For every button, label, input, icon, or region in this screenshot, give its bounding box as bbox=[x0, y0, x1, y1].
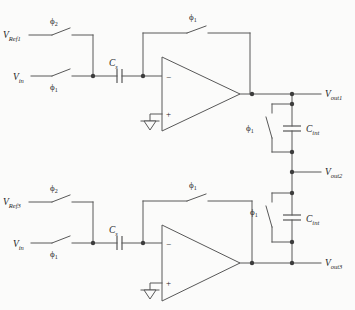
reset-switch-1 bbox=[266, 104, 292, 152]
integration-capacitor-1 bbox=[283, 126, 301, 131]
integrator-2: − + VRef3 ϕ2 Vin ϕ1 Cs ϕ1 bbox=[3, 180, 252, 301]
vin-label: Vin bbox=[13, 72, 24, 84]
inverting-input-label: − bbox=[166, 239, 171, 249]
phi2-label: ϕ2 bbox=[50, 183, 58, 194]
ground-symbol bbox=[141, 114, 162, 130]
vout2-label: Vout2 bbox=[325, 167, 343, 179]
opamp-2: − + bbox=[162, 225, 240, 301]
vref1-label: VRef1 bbox=[3, 30, 21, 42]
vin-branch-wire bbox=[31, 69, 93, 76]
opamp-body bbox=[162, 57, 240, 131]
phi2-switch-blade bbox=[52, 195, 70, 202]
inverting-input-label: − bbox=[166, 72, 171, 82]
phi2-switch-blade bbox=[52, 28, 70, 35]
phi1-switch-blade bbox=[52, 236, 70, 243]
noninverting-input-label: + bbox=[166, 278, 171, 288]
vin-label: Vin bbox=[13, 239, 24, 251]
reset-switch-2 bbox=[266, 193, 292, 242]
feedback-switch-blade bbox=[187, 194, 206, 201]
schematic-canvas: − + VRef1 ϕ2 Vin ϕ1 Cs ϕ1 bbox=[0, 0, 355, 310]
phi1-label: ϕ1 bbox=[50, 82, 58, 93]
vref1-branch-wire bbox=[29, 28, 93, 76]
cs-label: Cs bbox=[109, 225, 118, 237]
ground-symbol bbox=[141, 283, 162, 299]
noninverting-input-label: + bbox=[166, 109, 171, 119]
opamp-1: − + bbox=[162, 57, 240, 131]
feedback-phi1-label: ϕ1 bbox=[189, 12, 197, 23]
phi1-switch-blade bbox=[52, 69, 70, 76]
phi2-label: ϕ2 bbox=[50, 16, 58, 27]
sampling-capacitor bbox=[93, 236, 162, 250]
schematic-page: − + VRef1 ϕ2 Vin ϕ1 Cs ϕ1 bbox=[0, 0, 355, 310]
vout3-label: Vout3 bbox=[325, 258, 343, 270]
reset-switch-blade bbox=[266, 206, 272, 227]
cs-label: Cs bbox=[109, 58, 118, 70]
cint-label-2: Cint bbox=[306, 214, 319, 226]
integrator-1: − + VRef1 ϕ2 Vin ϕ1 Cs ϕ1 bbox=[3, 12, 250, 131]
cint-label-1: Cint bbox=[306, 124, 319, 136]
phi1-label: ϕ1 bbox=[50, 249, 58, 260]
vout1-label: Vout1 bbox=[325, 89, 342, 101]
reset-phi1-label-1: ϕ1 bbox=[246, 123, 254, 134]
reset-phi1-label-2: ϕ1 bbox=[250, 207, 258, 218]
vin-branch-wire bbox=[31, 236, 93, 243]
opamp-body bbox=[162, 225, 240, 301]
feedback-phi1-label: ϕ1 bbox=[189, 180, 197, 191]
vref3-label: VRef3 bbox=[3, 197, 21, 209]
vref3-branch-wire bbox=[29, 195, 93, 243]
integration-capacitor-2 bbox=[283, 215, 301, 220]
feedback-switch-blade bbox=[187, 26, 206, 33]
sampling-capacitor bbox=[93, 69, 162, 83]
reset-switch-blade bbox=[266, 117, 272, 138]
